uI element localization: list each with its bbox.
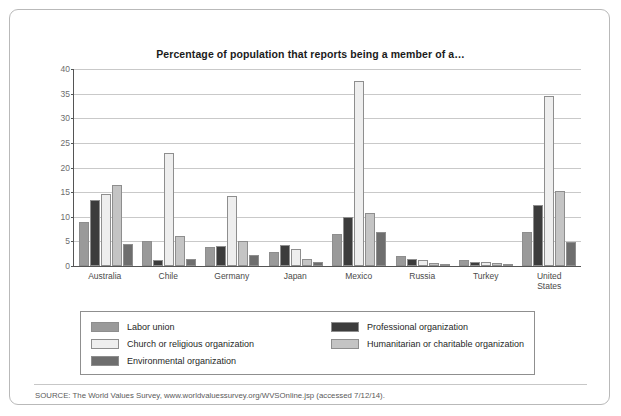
bar[interactable]	[101, 194, 111, 266]
bar-group	[137, 69, 200, 266]
y-axis-tick-label: 35	[61, 89, 70, 99]
x-axis-labels: AustraliaChileGermanyJapanMexicoRussiaTu…	[73, 268, 581, 291]
bar[interactable]	[522, 232, 532, 266]
figure-frame: Percentage of population that reports be…	[9, 9, 610, 405]
legend-swatch-icon	[331, 339, 359, 349]
x-axis-label: Japan	[264, 268, 328, 291]
bar[interactable]	[175, 236, 185, 266]
bar[interactable]	[503, 264, 513, 266]
legend-column: Professional organizationHumanitarian or…	[331, 318, 524, 369]
bar[interactable]	[238, 241, 248, 266]
y-axis-tick-label: 40	[61, 64, 70, 74]
y-axis-tick-label: 25	[61, 138, 70, 148]
y-axis-tick-mark	[71, 266, 74, 267]
bar[interactable]	[153, 260, 163, 266]
legend-label: Environmental organization	[127, 356, 236, 366]
chart-legend: Labor unionChurch or religious organizat…	[80, 311, 535, 375]
x-axis-label: United States	[518, 268, 582, 291]
legend-item[interactable]: Professional organization	[331, 318, 524, 335]
y-axis-tick-label: 0	[65, 261, 70, 271]
legend-column: Labor unionChurch or religious organizat…	[91, 318, 331, 369]
bar[interactable]	[123, 244, 133, 266]
legend-label: Humanitarian or charitable organization	[367, 339, 524, 349]
legend-item[interactable]: Humanitarian or charitable organization	[331, 335, 524, 352]
legend-item[interactable]: Labor union	[91, 318, 331, 335]
legend-label: Labor union	[127, 322, 175, 332]
bar[interactable]	[544, 96, 554, 266]
bar-group	[74, 69, 137, 266]
legend-item[interactable]: Church or religious organization	[91, 335, 331, 352]
x-axis-label: Turkey	[454, 268, 518, 291]
bar[interactable]	[142, 241, 152, 266]
bar[interactable]	[566, 242, 576, 266]
bar[interactable]	[291, 249, 301, 266]
bar-group	[391, 69, 454, 266]
bar[interactable]	[216, 246, 226, 266]
bar-group	[454, 69, 517, 266]
legend-swatch-icon	[331, 322, 359, 332]
plot-wrapper: 0510152025303540 AustraliaChileGermanyJa…	[53, 69, 581, 267]
bar[interactable]	[332, 234, 342, 266]
y-axis-tick-label: 20	[61, 163, 70, 173]
bar-groups	[74, 69, 581, 266]
bar[interactable]	[376, 232, 386, 266]
bar-group	[264, 69, 327, 266]
bar[interactable]	[533, 205, 543, 266]
bar-group	[518, 69, 581, 266]
bar[interactable]	[302, 259, 312, 266]
bar[interactable]	[365, 213, 375, 266]
legend-columns: Labor unionChurch or religious organizat…	[91, 318, 524, 369]
bar[interactable]	[429, 263, 439, 266]
bar[interactable]	[112, 185, 122, 266]
bar[interactable]	[164, 153, 174, 266]
bar[interactable]	[280, 245, 290, 266]
y-axis-tick-label: 30	[61, 113, 70, 123]
bar[interactable]	[205, 247, 215, 266]
legend-label: Church or religious organization	[127, 339, 254, 349]
legend-item[interactable]: Environmental organization	[91, 352, 331, 369]
bar[interactable]	[418, 260, 428, 266]
bar[interactable]	[79, 222, 89, 266]
bar[interactable]	[555, 191, 565, 266]
legend-swatch-icon	[91, 356, 119, 366]
legend-label: Professional organization	[367, 322, 468, 332]
bar[interactable]	[492, 263, 502, 266]
y-axis-tick-label: 5	[65, 236, 70, 246]
legend-swatch-icon	[91, 322, 119, 332]
legend-swatch-icon	[91, 339, 119, 349]
bar[interactable]	[407, 259, 417, 266]
bar-group	[328, 69, 391, 266]
plot-area: 0510152025303540	[73, 69, 581, 267]
x-axis-label: Russia	[391, 268, 455, 291]
bar[interactable]	[481, 262, 491, 266]
y-axis-tick-label: 10	[61, 212, 70, 222]
source-divider	[34, 384, 587, 385]
bar[interactable]	[354, 81, 364, 266]
bar[interactable]	[459, 260, 469, 266]
bar-group	[201, 69, 264, 266]
bar[interactable]	[186, 259, 196, 266]
x-axis-label: Australia	[73, 268, 137, 291]
bar[interactable]	[249, 255, 259, 266]
bar[interactable]	[396, 256, 406, 266]
bar[interactable]	[343, 217, 353, 266]
x-axis-label: Mexico	[327, 268, 391, 291]
bar[interactable]	[440, 264, 450, 266]
chart-title: Percentage of population that reports be…	[10, 48, 611, 60]
bar[interactable]	[313, 262, 323, 266]
x-axis-label: Germany	[200, 268, 264, 291]
screenshot-root: Percentage of population that reports be…	[0, 0, 621, 416]
y-axis-tick-label: 15	[61, 187, 70, 197]
x-axis-label: Chile	[137, 268, 201, 291]
bar[interactable]	[269, 252, 279, 266]
source-note: SOURCE: The World Values Survey, www.wor…	[35, 391, 385, 400]
bar[interactable]	[227, 196, 237, 266]
bar[interactable]	[470, 262, 480, 266]
bar[interactable]	[90, 200, 100, 266]
